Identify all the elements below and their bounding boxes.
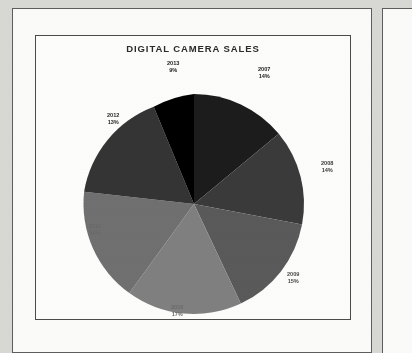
pie-label-2012: 2012 13% <box>107 112 119 127</box>
pie-label-2010-year: 2010 <box>171 304 183 310</box>
pie-label-2007: 2007 14% <box>258 66 270 81</box>
pie-label-2011-year: 2011 <box>89 223 101 229</box>
pie-label-2009: 2009 15% <box>287 271 299 286</box>
pie-label-2013-year: 2013 <box>167 60 179 66</box>
pie-label-2010-percent: 17% <box>171 311 183 318</box>
pie-label-2009-percent: 15% <box>287 278 299 285</box>
pie-label-2007-percent: 14% <box>258 73 270 80</box>
pie-chart-svg <box>36 36 352 321</box>
pie-label-2008-percent: 14% <box>321 167 333 174</box>
pie-label-2011-percent: 14% <box>89 230 101 237</box>
pie-label-2012-year: 2012 <box>107 112 119 118</box>
pie-label-2013-percent: 9% <box>167 67 179 74</box>
pie-label-2011: 2011 14% <box>89 223 101 238</box>
scanned-page: DIGITAL CAMERA SALES <box>12 8 372 353</box>
pie-chart <box>36 36 352 321</box>
pie-label-2008: 2008 14% <box>321 160 333 175</box>
pie-label-2008-year: 2008 <box>321 160 333 166</box>
pie-slices <box>83 94 304 314</box>
pie-label-2010: 2010 17% <box>171 304 183 319</box>
pie-label-2012-percent: 13% <box>107 119 119 126</box>
chart-frame: DIGITAL CAMERA SALES <box>35 35 351 320</box>
pie-label-2009-year: 2009 <box>287 271 299 277</box>
pie-label-2007-year: 2007 <box>258 66 270 72</box>
adjacent-page-edge <box>382 8 412 353</box>
pie-label-2013: 2013 9% <box>167 60 179 75</box>
